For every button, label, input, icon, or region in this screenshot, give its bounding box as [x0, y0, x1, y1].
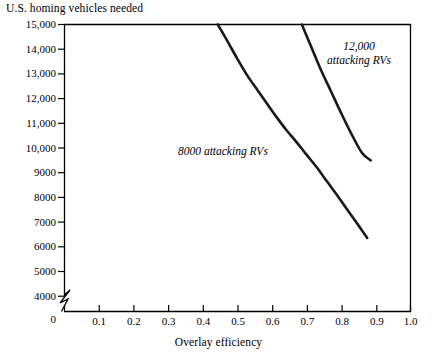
y-axis-origin-label: 0 [4, 313, 56, 325]
y-tick-label: 15,000 [4, 18, 56, 30]
chart-figure: U.S. homing vehicles needed [0, 0, 437, 363]
y-tick-label: 11,000 [4, 117, 56, 129]
x-axis-title: Overlay efficiency [0, 336, 437, 348]
y-tick-label: 8000 [4, 191, 56, 203]
y-tick-label: 10,000 [4, 142, 56, 154]
series-annotation-12000-line1: 12,000 [327, 40, 391, 54]
y-tick-label: 12,000 [4, 92, 56, 104]
series-annotation-12000: 12,000 attacking RVs [327, 40, 391, 67]
y-tick-label: 6000 [4, 240, 56, 252]
plot-frame [60, 24, 411, 312]
y-tick-label: 7000 [4, 216, 56, 228]
y-tick-label: 13,000 [4, 67, 56, 79]
x-axis-ticks [65, 305, 411, 312]
y-tick-label: 5000 [4, 265, 56, 277]
x-tick-label: 1.0 [391, 315, 431, 327]
y-axis-ticks [58, 25, 64, 297]
y-tick-label: 14,000 [4, 43, 56, 55]
series-annotation-8000: 8000 attacking RVs [178, 145, 268, 159]
y-tick-label: 4000 [4, 290, 56, 302]
y-tick-label: 9000 [4, 166, 56, 178]
series-annotation-12000-line2: attacking RVs [327, 54, 391, 68]
